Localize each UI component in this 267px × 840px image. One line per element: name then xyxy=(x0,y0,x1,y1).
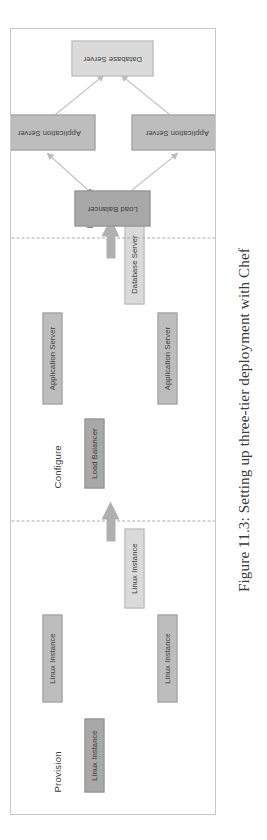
node-configure-app2[interactable]: Application Server xyxy=(157,312,177,404)
stage-configure: Configure Load Balancer Application Serv… xyxy=(11,246,215,504)
node-label: Application Server xyxy=(145,128,208,136)
figure-page: Provision Linux Instance Linux Instance … xyxy=(0,0,267,840)
arrow-shaft xyxy=(106,234,115,258)
up-arrow-icon-provision-to-configure xyxy=(101,501,119,541)
node-provision-db[interactable]: Linux Instance xyxy=(124,528,144,608)
node-label: Load Balancer xyxy=(90,428,98,478)
node-label: Linux Instance xyxy=(90,730,98,780)
node-configure-app1[interactable]: Application Server xyxy=(42,312,62,404)
figure-caption: Figure 11.3: Setting up three-tier deplo… xyxy=(235,248,253,592)
node-label: Database Server xyxy=(83,54,141,62)
stage-label-provision: Provision xyxy=(51,751,62,792)
node-integrate-app2[interactable]: Application Server xyxy=(131,114,216,150)
node-configure-lb[interactable]: Load Balancer xyxy=(84,418,104,488)
node-label: Application Server xyxy=(17,128,80,136)
node-label: Application Server xyxy=(48,326,56,389)
node-integrate-app1[interactable]: Application Server xyxy=(10,114,95,150)
node-label: Application Server xyxy=(163,326,171,389)
node-label: Linux Instance xyxy=(163,633,171,683)
stage-label-configure: Configure xyxy=(51,445,62,488)
node-label: Database Server xyxy=(130,235,138,293)
figure-caption-container: Figure 11.3: Setting up three-tier deplo… xyxy=(221,0,267,840)
node-provision-lb[interactable]: Linux Instance xyxy=(84,718,104,792)
stage-provision: Provision Linux Instance Linux Instance … xyxy=(11,556,215,814)
node-integrate-db[interactable]: Database Server xyxy=(71,40,153,76)
node-provision-app1[interactable]: Linux Instance xyxy=(42,614,62,702)
stage-integrate: Integrate Load Balancer Application Serv… xyxy=(11,29,215,222)
node-label: Linux Instance xyxy=(48,633,56,683)
node-label: Load Balancer xyxy=(87,204,137,212)
diagram-frame: Provision Linux Instance Linux Instance … xyxy=(10,28,216,815)
arrow-shaft xyxy=(106,517,115,541)
node-integrate-lb[interactable]: Load Balancer xyxy=(74,190,150,226)
node-label: Linux Instance xyxy=(130,543,138,593)
diagram-canvas: Provision Linux Instance Linux Instance … xyxy=(11,29,215,814)
node-provision-app2[interactable]: Linux Instance xyxy=(157,614,177,702)
node-configure-db[interactable]: Database Server xyxy=(124,224,144,304)
